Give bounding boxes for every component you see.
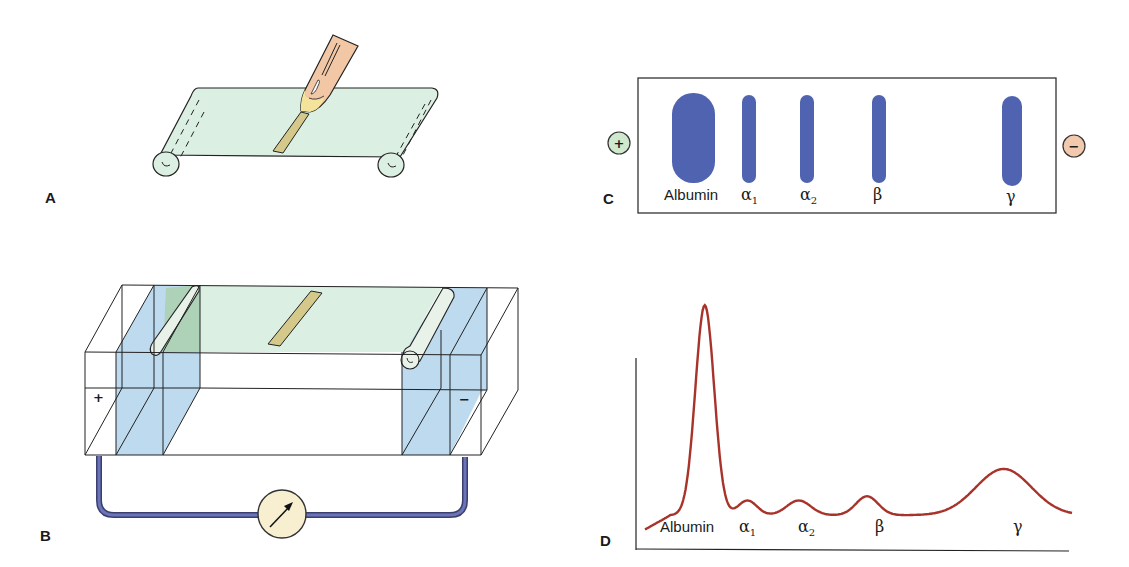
voltmeter-icon: [258, 490, 306, 538]
scan-label-alpha1: α1: [739, 517, 756, 538]
roll-left: [153, 152, 179, 176]
scan-label-beta: β: [875, 517, 884, 536]
electrophoresis-figure: A: [0, 0, 1129, 567]
anode-sign-c: +: [614, 136, 625, 151]
panel-b: + − B: [40, 285, 518, 544]
scan-label-alpha2: α2: [798, 517, 815, 538]
band-alpha2: [800, 95, 814, 183]
panel-a: A: [45, 35, 438, 206]
band-albumin: [672, 93, 715, 183]
scan-label-gamma: γ: [1013, 517, 1023, 536]
band-label-beta: β: [873, 185, 882, 204]
panel-label-d: D: [600, 532, 611, 549]
band-beta: [872, 95, 886, 183]
x-axis: [636, 549, 1069, 551]
cathode-sign-b: −: [459, 392, 470, 407]
panel-label-c: C: [603, 190, 614, 207]
cathode-sign-c: −: [1069, 139, 1080, 154]
band-label-gamma: γ: [1006, 187, 1016, 206]
panel-label-a: A: [45, 189, 56, 206]
densitometer-curve: [645, 305, 1072, 529]
band-label-albumin: Albumin: [664, 186, 718, 203]
panel-c: + − Albumin α1 α2 β γ C: [603, 78, 1085, 213]
panel-label-b: B: [40, 527, 51, 544]
roll-right: [378, 153, 404, 177]
panel-d: Albumin α1 α2 β γ D: [600, 305, 1072, 551]
scan-label-albumin: Albumin: [660, 518, 714, 535]
band-gamma: [1002, 96, 1022, 186]
anode-sign-b: +: [93, 390, 104, 405]
band-alpha1: [742, 95, 756, 183]
